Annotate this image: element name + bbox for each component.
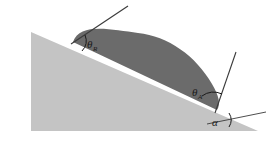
theta-receding-subscript: R — [92, 45, 98, 53]
alpha-label: α — [212, 116, 218, 128]
theta-advancing-subscript: A — [197, 93, 203, 101]
contact-angle-figure: θR θA α — [0, 0, 272, 143]
figure-canvas: θR θA α — [0, 0, 272, 143]
